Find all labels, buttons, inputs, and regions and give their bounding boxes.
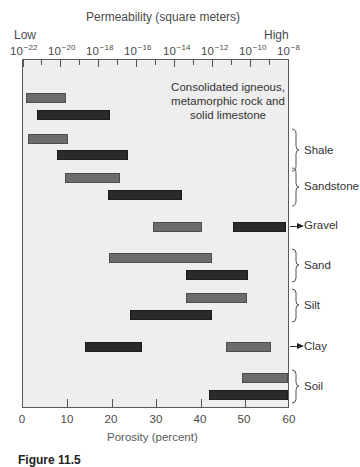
group-label-shale: Shale [304, 144, 333, 156]
ptick-label: 10−18 [86, 43, 113, 57]
ptick-label: 10−22 [10, 43, 37, 57]
bottom-tick [245, 399, 246, 407]
bar-soil-porosity [242, 373, 288, 383]
bottom-tick [156, 399, 157, 407]
bar-clay-permeability [85, 342, 142, 352]
top-tick [269, 60, 270, 65]
group-label-soil: Soil [304, 380, 323, 392]
ptick-label: 10−20 [48, 43, 75, 57]
annotation-line: metamorphic rock and [163, 94, 293, 108]
bar-consolidated-permeability [37, 110, 110, 120]
bar-shale-porosity [28, 134, 68, 144]
bar-silt-porosity [186, 293, 247, 303]
ptick-label: 10−12 [201, 43, 228, 57]
top-tick [212, 60, 213, 67]
top-tick [193, 60, 194, 65]
top-tick [231, 60, 232, 65]
ptick-label: 10−14 [163, 43, 190, 57]
bar-gravel-permeability [233, 222, 286, 232]
high-label: High [264, 28, 289, 42]
brace-sand-icon [291, 248, 299, 283]
bar-sand-porosity [109, 253, 212, 263]
brace-soil-icon [291, 369, 299, 404]
top-tick [117, 60, 118, 65]
group-label-gravel: Gravel [304, 219, 338, 231]
group-label-clay: Clay [304, 340, 327, 352]
brace-shale-icon [291, 128, 299, 172]
consolidated-rock-annotation: Consolidated igneous, metamorphic rock a… [163, 80, 293, 122]
xtick-label: 40 [194, 413, 207, 425]
top-tick [79, 60, 80, 65]
bottom-tick [112, 399, 113, 407]
ptick-label: 10−10 [239, 43, 266, 57]
xtick-label: 0 [19, 413, 25, 425]
xtick-label: 30 [150, 413, 163, 425]
x-axis-title: Porosity (percent) [107, 431, 198, 443]
ptick-label: 10−16 [124, 43, 151, 57]
xtick-label: 10 [61, 413, 74, 425]
annotation-line: solid limestone [163, 108, 293, 122]
top-tick [60, 60, 61, 67]
brace-sandstone-icon [291, 167, 299, 207]
xtick-label: 50 [238, 413, 251, 425]
bar-sandstone-porosity [65, 173, 120, 183]
bottom-tick [67, 399, 68, 407]
top-tick [155, 60, 156, 65]
plot-area: Consolidated igneous, metamorphic rock a… [22, 59, 289, 408]
bar-clay-porosity [226, 342, 271, 352]
top-tick [23, 60, 24, 67]
arrow-right-icon [297, 223, 304, 229]
low-label: Low [14, 28, 36, 42]
ptick-label: 10−8 [277, 43, 300, 57]
bar-sand-permeability [186, 270, 248, 280]
xtick-label: 60 [283, 413, 296, 425]
figure-caption: Figure 11.5 [18, 453, 81, 467]
bar-consolidated-porosity [26, 93, 66, 103]
top-tick [98, 60, 99, 67]
top-tick [250, 60, 251, 67]
top-tick [174, 60, 175, 67]
bar-shale-permeability [57, 150, 128, 160]
bottom-tick [201, 399, 202, 407]
bottom-tick [288, 399, 289, 407]
annotation-line: Consolidated igneous, [163, 80, 293, 94]
bar-soil-permeability [209, 390, 288, 400]
bar-sandstone-permeability [108, 190, 182, 200]
top-tick [41, 60, 42, 65]
xtick-label: 20 [105, 413, 118, 425]
top-axis-title: Permeability (square meters) [86, 10, 240, 24]
arrow-right-icon [297, 343, 304, 349]
group-label-sandstone: Sandstone [304, 180, 359, 192]
top-tick [136, 60, 137, 67]
group-label-silt: Silt [304, 299, 320, 311]
brace-silt-icon [291, 288, 299, 323]
group-label-sand: Sand [304, 259, 331, 271]
bar-gravel-porosity [153, 222, 202, 232]
bar-silt-permeability [130, 310, 212, 320]
